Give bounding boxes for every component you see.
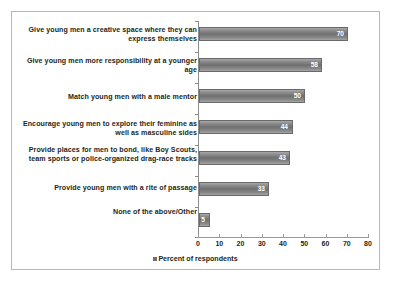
x-axis-tick-label: 60 [316,240,336,247]
bar-value-label: 44 [243,123,288,130]
x-axis-tick [326,234,327,237]
category-label-places-to-bond: Provide places for men to bond, like Boy… [18,146,197,163]
x-axis-tick-label: 10 [209,240,229,247]
x-axis-tick-label: 30 [252,240,272,247]
y-axis-tick [195,114,198,115]
x-axis-tick [198,234,199,237]
category-label-rite-of-passage: Provide young men with a rite of passage [18,184,197,193]
y-axis-tick [195,176,198,177]
chart-frame: Give young men a creative space where th… [11,11,380,270]
x-axis-tick [241,234,242,237]
x-axis-line [198,237,369,238]
x-axis-tick-label: 70 [337,240,357,247]
category-label-male-mentor: Match young men with a male mentor [18,93,197,102]
bar-value-label: 5 [160,216,205,223]
bar-value-label: 70 [299,30,344,37]
category-label-explore-feminine: Encourage young men to explore their fem… [18,120,197,137]
x-axis-tick-label: 40 [273,240,293,247]
legend-label: Percent of respondents [158,255,237,263]
x-axis-tick-label: 20 [231,240,251,247]
x-axis-tick-label: 50 [294,240,314,247]
x-axis-tick [219,234,220,237]
y-axis-tick [195,52,198,53]
x-axis-tick [262,234,263,237]
x-axis-tick [347,234,348,237]
bar-value-label: 58 [273,61,318,68]
y-axis-tick [195,83,198,84]
x-axis-tick [283,234,284,237]
category-label-more-responsibility: Give young men more responsibility at a … [18,57,197,74]
x-axis-tick-label: 0 [188,240,208,247]
x-axis-tick [304,234,305,237]
x-axis-tick [368,234,369,237]
bar-value-label: 33 [220,185,265,192]
y-axis-tick [195,145,198,146]
y-axis-tick [195,21,198,22]
chart-legend: Percent of respondents [12,255,379,263]
bar-value-label: 43 [241,154,286,161]
legend-swatch-icon [153,257,157,261]
bar-chart-plot-area: Give young men a creative space where th… [12,12,379,269]
x-axis-tick-label: 80 [358,240,378,247]
y-axis-tick [195,207,198,208]
category-label-creative-space: Give young men a creative space where th… [18,26,197,43]
bar-value-label: 50 [256,92,301,99]
